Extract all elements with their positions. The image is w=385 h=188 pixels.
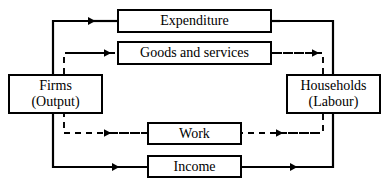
income-connector-right	[242, 114, 333, 167]
node-income-label: Income	[174, 159, 216, 175]
node-work-label: Work	[179, 126, 210, 142]
node-goods-and-services: Goods and services	[117, 41, 272, 65]
node-goods-and-services-label: Goods and services	[140, 45, 249, 61]
node-firms-label-line2: (Output)	[31, 94, 79, 110]
node-firms-label-line1: Firms	[39, 78, 72, 94]
circular-flow-diagram: Expenditure Goods and services Firms (Ou…	[0, 0, 385, 188]
node-firms: Firms (Output)	[8, 74, 103, 114]
node-expenditure-label: Expenditure	[160, 13, 228, 29]
node-households-label-line2: (Labour)	[309, 94, 359, 110]
node-households-label-line1: Households	[300, 78, 366, 94]
node-work: Work	[147, 122, 242, 145]
income-connector-left	[53, 114, 147, 167]
work-connector-left	[64, 114, 147, 133]
node-households: Households (Labour)	[286, 74, 381, 114]
expenditure-connector-left	[53, 21, 117, 74]
goods-connector-left	[64, 53, 117, 74]
node-income: Income	[147, 155, 242, 178]
expenditure-connector-right	[272, 21, 333, 74]
goods-connector-right	[272, 53, 323, 74]
node-expenditure: Expenditure	[117, 9, 272, 33]
work-connector-right	[242, 114, 323, 133]
